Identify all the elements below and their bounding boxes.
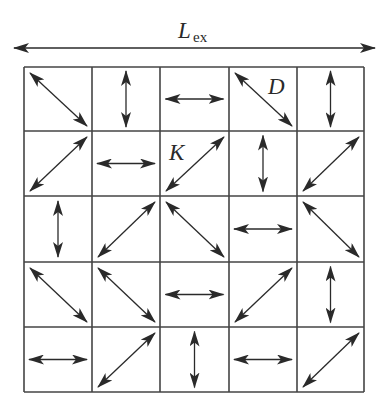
double-arrow-diag-up-icon (303, 137, 359, 191)
double-arrow-diag-up-icon (303, 333, 359, 387)
annotation-label-d: D (267, 74, 285, 99)
double-arrow-diag-down-icon (30, 73, 87, 126)
grid-cell-r2-c4 (303, 202, 359, 257)
grid-cell-r1-c4 (303, 137, 359, 191)
double-arrow-diag-up-icon (98, 202, 155, 257)
annotation-label-k: K (168, 140, 186, 165)
diagram-canvas: L ex DK (0, 0, 384, 415)
double-arrow-diag-down-icon (166, 202, 224, 257)
grid-cell-r2-c1 (98, 202, 155, 257)
double-arrow-diag-down-icon (303, 202, 359, 257)
grid-cell-r3-c3 (235, 268, 292, 322)
grid-cell-r0-c0 (30, 73, 87, 126)
grid-cells (29, 71, 359, 388)
grid-cell-r2-c2 (166, 202, 224, 257)
double-arrow-diag-down-icon (98, 268, 155, 322)
grid-cell-r4-c4 (303, 333, 359, 387)
title-label: L ex (177, 18, 208, 45)
title-main-text: L (177, 18, 191, 43)
grid-cell-r4-c1 (98, 333, 155, 387)
double-arrow-diag-up-icon (98, 333, 155, 387)
grid-cell-r3-c0 (30, 268, 87, 322)
title-subscript-text: ex (193, 29, 208, 45)
grid-cell-r1-c0 (30, 137, 87, 191)
double-arrow-diag-down-icon (30, 268, 87, 322)
grid-cell-r3-c1 (98, 268, 155, 322)
double-arrow-diag-up-icon (30, 137, 87, 191)
double-arrow-diag-up-icon (235, 268, 292, 322)
cell-annotations: DK (168, 74, 285, 165)
